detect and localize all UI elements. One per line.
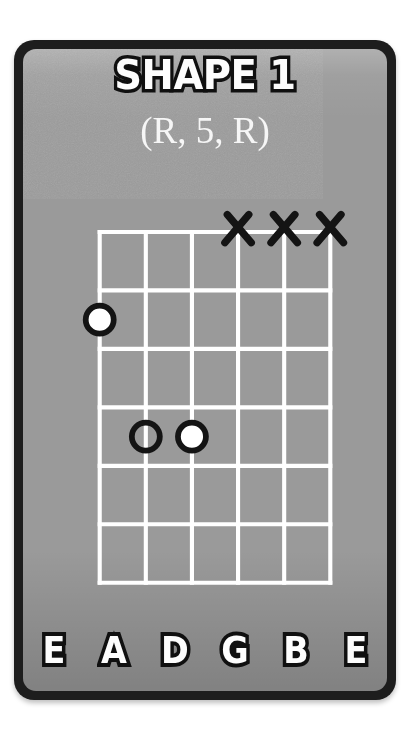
string-label-G-4: G [220, 631, 250, 669]
string-label-B-5: B [281, 631, 311, 669]
fret-lines-group [100, 232, 331, 583]
note-marker-D-fret4-filled [178, 423, 206, 451]
chord-diagram-card: SHAPE 1 (R, 5, R) EADGBE [14, 40, 396, 700]
chord-degrees-subtitle: (R, 5, R) [23, 112, 387, 149]
note-marker-E-fret2-filled [86, 306, 114, 334]
string-label-D-3: D [160, 631, 190, 669]
page-title: SHAPE 1 [34, 55, 376, 96]
fretboard-grid [75, 182, 355, 608]
string-label-E-6: E [341, 631, 371, 669]
string-name-row: EADGBE [37, 631, 373, 669]
string-label-E-1: E [39, 631, 69, 669]
string-label-A-2: A [99, 631, 129, 669]
card-inner-surface: SHAPE 1 (R, 5, R) EADGBE [23, 49, 387, 691]
chord-shape-card-page: SHAPE 1 (R, 5, R) EADGBE [0, 0, 411, 752]
